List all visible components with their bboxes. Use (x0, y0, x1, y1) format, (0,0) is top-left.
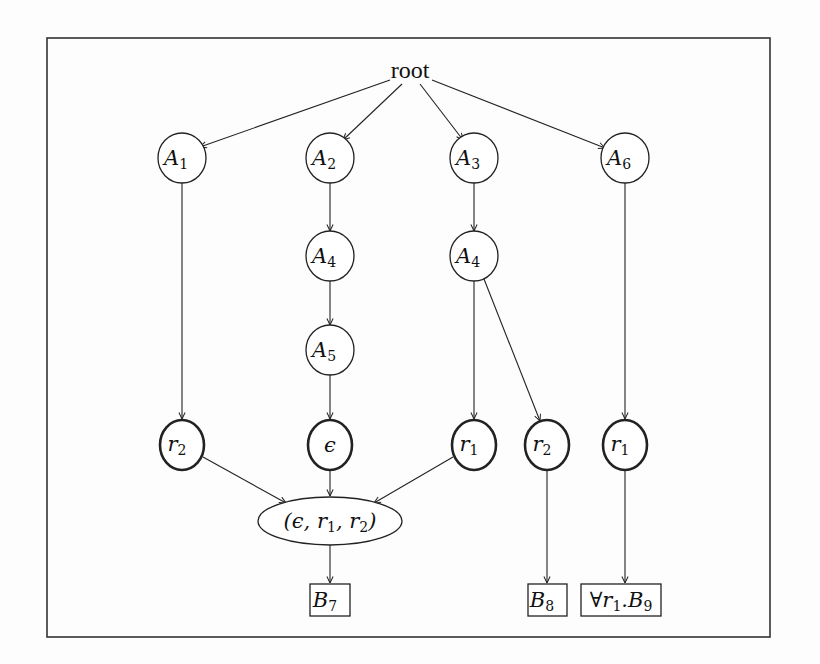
leaf-B7-subscript: 7 (328, 598, 337, 614)
tuple-subscript-2: 2 (359, 519, 368, 535)
node-A3-subscript: 3 (471, 156, 480, 172)
node-r2-right: r2 (525, 420, 569, 470)
node-A6-label: A (605, 146, 622, 170)
node-A4-right: A4 (450, 231, 498, 281)
node-A1: A1 (158, 133, 206, 183)
node-A3-label: A (454, 146, 471, 170)
node-A3: A3 (450, 133, 498, 183)
tuple-subscript-1: 1 (327, 519, 336, 535)
node-A2-label: A (310, 146, 327, 170)
leaf-B9-prefix: ∀r (590, 588, 615, 612)
tuple-label-part: (ϵ, r (284, 509, 329, 533)
node-r1-middle-subscript: 1 (470, 442, 479, 458)
node-tuple: (ϵ, r1, r2) (258, 497, 402, 545)
root-label: root (391, 57, 430, 83)
tuple-label-part: , r (336, 509, 361, 533)
leaf-B9-prefix-subscript: 1 (612, 598, 621, 614)
node-r1-right: r1 (603, 420, 647, 470)
edge-root-A6 (432, 80, 605, 148)
node-A6: A6 (601, 133, 649, 183)
node-A1-subscript: 1 (179, 156, 188, 172)
svg-text:∀r1.B9: ∀r1.B9 (590, 588, 653, 614)
tree-diagram: root A1 A2 A3 A6 A4 A4 A5 r2 ϵ r1 (0, 0, 820, 664)
leaf-B7: B7 (310, 584, 350, 616)
leaf-B8-label: B (529, 588, 545, 612)
node-epsilon-label: ϵ (324, 433, 336, 457)
edge-root-A2 (343, 84, 402, 140)
node-r1-right-subscript: 1 (621, 442, 630, 458)
edge-root-A3 (420, 84, 463, 140)
node-A2: A2 (306, 133, 354, 183)
edge-r1-tuple (374, 457, 453, 503)
node-A5-subscript: 5 (327, 348, 336, 364)
edge-A4-r2 (484, 279, 540, 421)
tuple-label-part: ) (367, 509, 376, 533)
edges (182, 80, 625, 583)
edge-root-A1 (200, 80, 390, 147)
edge-r2-tuple (203, 457, 286, 503)
node-A5-label: A (310, 338, 327, 362)
leaf-B8: B8 (528, 584, 567, 616)
node-r1-middle: r1 (452, 420, 496, 470)
node-A4-left-label: A (310, 244, 327, 268)
node-A5: A5 (306, 325, 354, 375)
node-A4-left-subscript: 4 (327, 254, 336, 270)
leaf-B9-label: .B (621, 588, 643, 612)
node-A4-left: A4 (306, 231, 354, 281)
node-A4-right-label: A (454, 244, 471, 268)
figure-frame (47, 38, 770, 637)
node-A2-subscript: 2 (327, 156, 336, 172)
node-epsilon: ϵ (308, 420, 352, 470)
node-A4-right-subscript: 4 (471, 254, 480, 270)
node-r2-left-subscript: 2 (178, 442, 187, 458)
leaf-B7-label: B (312, 588, 328, 612)
node-r2-right-subscript: 2 (543, 442, 552, 458)
leaf-B8-subscript: 8 (545, 598, 554, 614)
node-A1-label: A (162, 146, 179, 170)
node-A6-subscript: 6 (622, 156, 631, 172)
leaf-B9-subscript: 9 (643, 598, 652, 614)
leaf-forall-r1-B9: ∀r1.B9 (581, 584, 661, 616)
node-r2-left: r2 (160, 420, 204, 470)
